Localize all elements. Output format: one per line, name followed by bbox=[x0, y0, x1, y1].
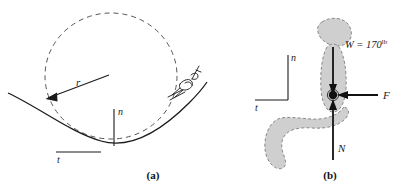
radius-label: r bbox=[76, 76, 81, 88]
slope-curve-icon bbox=[8, 82, 207, 143]
axes-b bbox=[255, 55, 288, 100]
friction-force-label: F bbox=[382, 89, 390, 101]
panel-b-caption: (b) bbox=[323, 169, 337, 182]
weight-label: W = 170lb bbox=[345, 38, 388, 50]
weight-label-text: W = 170 bbox=[345, 39, 383, 50]
dashed-circle-icon bbox=[45, 13, 177, 139]
person-legs bbox=[265, 107, 349, 169]
panel-a: r n t bbox=[8, 13, 207, 182]
center-of-mass-dot-icon bbox=[329, 91, 337, 99]
figure-canvas: r n t bbox=[0, 0, 400, 196]
normal-axis-label-b: n bbox=[291, 52, 296, 63]
panel-b: n t W = 170lb bbox=[255, 18, 390, 182]
normal-axis-label-a: n bbox=[118, 106, 123, 117]
normal-force-label: N bbox=[337, 142, 346, 154]
normal-arrow-icon bbox=[329, 99, 337, 160]
tangential-axis-label-a: t bbox=[57, 154, 60, 165]
tangential-axis-label-b: t bbox=[255, 102, 258, 113]
weight-unit-text: lb bbox=[382, 38, 388, 46]
physics-figure: r n t bbox=[0, 0, 400, 196]
panel-a-caption: (a) bbox=[147, 169, 160, 182]
